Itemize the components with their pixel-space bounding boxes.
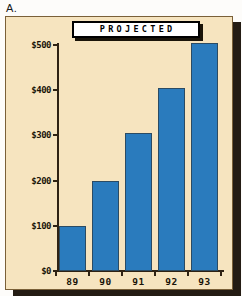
chart-panel: PROJECTED $0$100$200$300$400$500 8990919… bbox=[5, 16, 233, 290]
y-tick-label: $200 bbox=[7, 176, 51, 186]
y-tick-label: $300 bbox=[7, 130, 51, 140]
x-axis-title: Year bbox=[6, 289, 233, 290]
bar bbox=[125, 133, 152, 271]
y-tick-label: $500 bbox=[7, 40, 51, 50]
bar bbox=[59, 226, 86, 271]
y-tick bbox=[53, 89, 59, 91]
y-tick bbox=[53, 180, 59, 182]
x-tick-label: 93 bbox=[185, 276, 225, 287]
y-tick-label: $0 bbox=[7, 266, 51, 276]
figure-letter: A. bbox=[6, 2, 17, 14]
y-tick bbox=[53, 44, 59, 46]
bar bbox=[191, 43, 218, 271]
bar bbox=[92, 181, 119, 271]
y-tick-label: $400 bbox=[7, 85, 51, 95]
bar bbox=[158, 88, 185, 271]
y-tick-label: $100 bbox=[7, 221, 51, 231]
plot-area: $0$100$200$300$400$500 8990919293 Year bbox=[6, 17, 233, 290]
y-tick bbox=[53, 134, 59, 136]
